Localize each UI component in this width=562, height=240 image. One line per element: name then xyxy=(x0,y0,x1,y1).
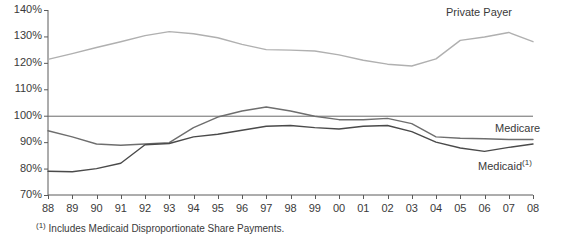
y-tick-120: 120% xyxy=(2,56,42,68)
x-tick-91: 91 xyxy=(109,202,133,214)
series-label-medicare: Medicare xyxy=(495,122,540,134)
footnote-marker: (1) xyxy=(36,221,46,230)
x-tick-03: 03 xyxy=(400,202,424,214)
x-tick-08: 08 xyxy=(521,202,545,214)
x-tick-02: 02 xyxy=(376,202,400,214)
x-tick-90: 90 xyxy=(85,202,109,214)
y-tick-70: 70% xyxy=(2,188,42,200)
series-label-medicaid: Medicaid(1) xyxy=(478,158,532,172)
x-tick-99: 99 xyxy=(303,202,327,214)
series-line-private-payer xyxy=(48,32,533,66)
x-tick-97: 97 xyxy=(254,202,278,214)
x-tick-04: 04 xyxy=(424,202,448,214)
x-tick-98: 98 xyxy=(279,202,303,214)
chart-axes xyxy=(44,10,534,199)
series-label-private-payer: Private Payer xyxy=(446,6,512,18)
y-tick-100: 100% xyxy=(2,109,42,121)
x-tick-96: 96 xyxy=(230,202,254,214)
x-tick-94: 94 xyxy=(182,202,206,214)
series-line-medicaid xyxy=(48,125,533,171)
x-tick-92: 92 xyxy=(133,202,157,214)
x-tick-93: 93 xyxy=(157,202,181,214)
x-tick-05: 05 xyxy=(448,202,472,214)
x-tick-07: 07 xyxy=(497,202,521,214)
x-tick-89: 89 xyxy=(60,202,84,214)
payment-to-cost-ratio-chart: 70%80%90%100%110%120%130%140% 8889909192… xyxy=(0,0,562,240)
x-tick-88: 88 xyxy=(36,202,60,214)
y-tick-130: 130% xyxy=(2,29,42,41)
y-tick-80: 80% xyxy=(2,162,42,174)
y-tick-110: 110% xyxy=(2,82,42,94)
x-tick-95: 95 xyxy=(206,202,230,214)
x-tick-01: 01 xyxy=(351,202,375,214)
chart-series-lines xyxy=(48,32,533,172)
x-tick-00: 00 xyxy=(327,202,351,214)
y-tick-90: 90% xyxy=(2,135,42,147)
y-tick-140: 140% xyxy=(2,3,42,15)
chart-footnote: (1) Includes Medicaid Disproportionate S… xyxy=(36,221,284,234)
x-tick-06: 06 xyxy=(473,202,497,214)
